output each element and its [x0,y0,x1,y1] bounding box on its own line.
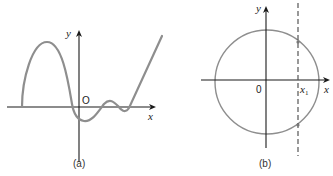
circle [215,30,319,134]
x1-label: x1 [299,83,309,97]
origin-label-b: 0 [256,84,262,95]
figure: y O x (a) y 0 x1 x (b) [0,0,333,176]
y-label-b: y [255,2,261,14]
caption-a: (a) [73,158,85,169]
x-label-a: x [147,110,153,122]
panel-a: y O x (a) [7,27,162,169]
panel-b: y 0 x1 x (b) [201,2,330,169]
intersection-point-upper [296,40,299,43]
function-curve [22,36,162,121]
y-label-a: y [65,27,71,39]
x-label-b: x [323,83,329,95]
caption-b: (b) [259,158,271,169]
intersection-point-lower [296,123,299,126]
origin-label-a: O [82,95,90,106]
